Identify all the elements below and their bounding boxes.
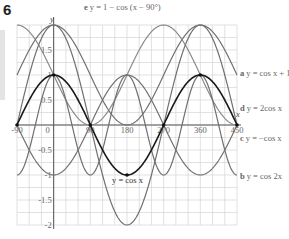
key-point — [199, 73, 203, 77]
x-axis-label: x — [235, 109, 240, 119]
label-d: dy = 2cos x — [240, 103, 283, 113]
x-tick-label: 0 — [46, 125, 50, 135]
y-tick-label: -1.5 — [38, 195, 51, 205]
label-c: cy = −cos x — [240, 133, 282, 143]
label-a: ay = cos x + 1 — [240, 68, 289, 78]
y-tick-label: -0.5 — [38, 145, 51, 155]
y-tick-label: -2 — [45, 220, 52, 230]
curve-labels: ey = 1 − cos (x − 90°) ay = cos x + 1 dy… — [49, 2, 289, 185]
label-base-cos: y = cos x — [112, 175, 144, 185]
key-point — [235, 123, 239, 127]
x-tick-label: 180 — [121, 125, 134, 135]
key-point — [52, 73, 56, 77]
label-e: ey = 1 − cos (x − 90°) — [84, 2, 161, 12]
cosine-graph: -90090180270360450-2-1.5-1-0.50.511.5 ey… — [0, 0, 289, 239]
key-point — [89, 123, 93, 127]
label-b: by = cos 2x — [240, 171, 283, 181]
y-axis-label: y — [49, 14, 54, 24]
key-point — [15, 123, 19, 127]
key-point — [162, 123, 166, 127]
x-tick-label: 360 — [194, 125, 207, 135]
